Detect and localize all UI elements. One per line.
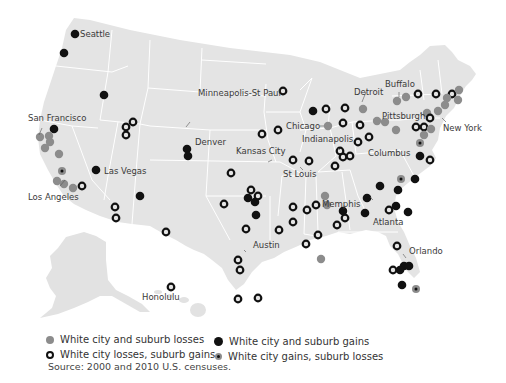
city-loss-suburb-gain-marker	[259, 131, 266, 138]
city-loss-suburb-gain-marker	[342, 105, 349, 112]
city-loss-suburb-gain-marker	[415, 91, 422, 98]
both-gains-marker	[100, 91, 109, 100]
both-gains-marker	[50, 125, 59, 134]
label-columbus: Columbus	[368, 148, 411, 158]
city-loss-suburb-gain-marker	[413, 124, 420, 131]
city-loss-suburb-gain-marker	[130, 119, 137, 126]
label-indianapolis: Indianapolis	[302, 134, 354, 144]
label-memphis: Memphis	[322, 199, 361, 209]
city-loss-suburb-gain-marker	[228, 170, 235, 177]
both-gains-marker	[184, 152, 193, 161]
city-loss-suburb-gain-marker	[276, 227, 283, 234]
both-losses-marker	[36, 133, 44, 141]
label-denver: Denver	[195, 137, 226, 147]
label-austin: Austin	[253, 240, 280, 250]
both-losses-marker	[41, 144, 49, 152]
city-loss-suburb-gain-marker	[303, 241, 310, 248]
source-note: Source: 2000 and 2010 U.S. censuses.	[48, 361, 231, 372]
city-gain-center-dot	[419, 142, 422, 145]
ring-dot-icon	[46, 351, 54, 359]
us-metro-map: Seattle San Francisco Los Angeles Las Ve…	[0, 0, 506, 383]
city-loss-suburb-gain-marker	[323, 106, 330, 113]
label-atlanta: Atlanta	[373, 217, 404, 227]
label-las-vegas: Las Vegas	[104, 166, 147, 176]
city-loss-suburb-gain-marker	[357, 122, 364, 129]
city-loss-suburb-gain-marker	[394, 243, 401, 250]
city-loss-suburb-gain-marker	[235, 257, 242, 264]
both-gains-marker	[60, 49, 69, 58]
city-loss-suburb-gain-marker	[337, 148, 344, 155]
city-loss-suburb-gain-marker	[427, 157, 434, 164]
city-loss-suburb-gain-marker	[168, 284, 175, 291]
city-loss-suburb-gain-marker	[237, 267, 244, 274]
city-loss-suburb-gain-marker	[340, 120, 347, 127]
label-detroit: Detroit	[354, 87, 384, 97]
city-loss-suburb-gain-marker	[79, 183, 86, 190]
city-loss-suburb-gain-marker	[386, 207, 393, 214]
both-gains-marker	[398, 281, 407, 290]
city-loss-suburb-gain-marker	[248, 187, 255, 194]
both-gains-marker	[71, 30, 80, 39]
both-losses-marker	[393, 97, 401, 105]
city-loss-suburb-gain-marker	[243, 226, 250, 233]
label-seattle: Seattle	[80, 29, 110, 39]
city-loss-suburb-gain-marker	[221, 201, 228, 208]
both-gains-marker	[252, 211, 261, 220]
both-losses-marker	[454, 96, 462, 104]
label-pittsburgh: Pittsburgh	[382, 111, 425, 121]
city-loss-suburb-gain-marker	[390, 267, 397, 274]
city-loss-suburb-gain-marker	[255, 295, 262, 302]
label-orlando: Orlando	[409, 246, 443, 256]
both-losses-marker	[420, 131, 428, 139]
both-gains-marker	[363, 194, 372, 203]
legend-city-gain-suburb-loss: White city gains, suburb losses	[215, 351, 383, 362]
label-san-francisco: San Francisco	[28, 113, 86, 123]
both-gains-marker	[309, 107, 318, 116]
city-loss-suburb-gain-marker	[427, 115, 434, 122]
city-loss-suburb-gain-marker	[313, 202, 320, 209]
both-losses-marker	[373, 117, 381, 125]
legend-label: White city and suburb gains	[229, 336, 369, 347]
city-loss-suburb-gain-marker	[304, 207, 311, 214]
legend-both-gains: White city and suburb gains	[214, 336, 369, 347]
city-loss-suburb-gain-marker	[290, 219, 297, 226]
label-buffalo: Buffalo	[385, 79, 415, 89]
both-losses-marker	[455, 86, 463, 94]
both-losses-marker	[427, 125, 435, 133]
city-loss-suburb-gain-marker	[255, 193, 262, 200]
both-gains-marker	[136, 192, 145, 201]
label-honolulu: Honolulu	[142, 292, 180, 302]
city-loss-suburb-gain-marker	[163, 229, 170, 236]
label-st-louis: St Louis	[283, 169, 317, 179]
legend-label: White city losses, suburb gains	[60, 349, 215, 360]
both-gains-marker	[92, 166, 101, 175]
city-loss-suburb-gain-marker	[235, 296, 242, 303]
city-loss-suburb-gain-marker	[332, 163, 339, 170]
both-losses-marker	[359, 105, 367, 113]
label-minneapolis-st-paul: Minneapolis-St Paul	[198, 88, 281, 98]
city-loss-suburb-gain-marker	[123, 132, 130, 139]
both-losses-marker	[402, 93, 410, 101]
legend-label: White city gains, suburb losses	[228, 351, 383, 362]
city-loss-suburb-gain-marker	[334, 222, 341, 229]
city-loss-suburb-gain-marker	[347, 153, 354, 160]
both-gains-marker	[361, 209, 370, 218]
legend-label: White city and suburb losses	[60, 334, 204, 345]
city-loss-suburb-gain-marker	[433, 91, 440, 98]
city-loss-suburb-gain-marker	[113, 215, 120, 222]
city-loss-suburb-gain-marker	[275, 127, 282, 134]
city-loss-suburb-gain-marker	[342, 215, 349, 222]
both-losses-marker	[324, 122, 332, 130]
legend-both-losses: White city and suburb losses	[46, 334, 204, 345]
city-loss-suburb-gain-marker	[112, 204, 119, 211]
both-losses-marker	[441, 101, 449, 109]
label-new-york: New York	[443, 123, 482, 133]
city-loss-suburb-gain-marker	[306, 158, 313, 165]
city-loss-suburb-gain-marker	[355, 139, 362, 146]
city-gain-center-dot	[400, 178, 403, 181]
both-gains-marker	[405, 262, 414, 271]
city-gain-center-dot	[415, 288, 418, 291]
both-losses-marker	[317, 255, 325, 263]
both-gains-marker	[404, 208, 413, 217]
both-losses-marker	[69, 184, 77, 192]
